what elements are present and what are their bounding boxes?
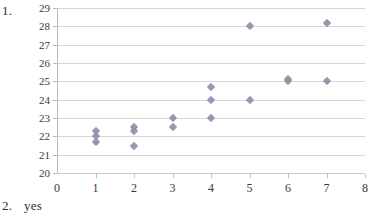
data-point bbox=[322, 77, 330, 85]
x-axis-label: 7 bbox=[317, 182, 337, 194]
question-2-number: 2. bbox=[2, 198, 12, 214]
y-axis-tick bbox=[53, 100, 57, 101]
x-axis-tick bbox=[211, 174, 212, 178]
x-axis-tick bbox=[365, 174, 366, 178]
scatter-chart: 20212223242526272829 012345678 bbox=[0, 0, 371, 195]
y-axis-label: 29 bbox=[24, 3, 50, 14]
data-point bbox=[245, 22, 253, 30]
x-axis-tick bbox=[96, 174, 97, 178]
y-axis-tick bbox=[53, 173, 57, 174]
y-axis-label: 23 bbox=[24, 113, 50, 124]
x-axis-label: 6 bbox=[278, 182, 298, 194]
y-axis-label: 26 bbox=[24, 58, 50, 69]
data-point bbox=[130, 141, 138, 149]
y-axis-tick bbox=[53, 136, 57, 137]
x-axis-label: 0 bbox=[47, 182, 67, 194]
y-axis-tick bbox=[53, 45, 57, 46]
data-point bbox=[245, 95, 253, 103]
y-axis-tick bbox=[53, 8, 57, 9]
gridline-horizontal bbox=[57, 63, 365, 64]
y-axis-label: 21 bbox=[24, 150, 50, 161]
y-axis-label: 27 bbox=[24, 40, 50, 51]
y-axis-tick bbox=[53, 118, 57, 119]
x-axis-label: 8 bbox=[355, 182, 371, 194]
data-point bbox=[207, 95, 215, 103]
x-axis-tick bbox=[288, 174, 289, 178]
data-point bbox=[168, 123, 176, 131]
y-axis-label: 28 bbox=[24, 21, 50, 32]
y-axis-label: 25 bbox=[24, 76, 50, 87]
gridline-horizontal bbox=[57, 8, 365, 9]
x-axis-label: 3 bbox=[163, 182, 183, 194]
gridline-horizontal bbox=[57, 155, 365, 156]
y-axis-tick bbox=[53, 155, 57, 156]
y-axis-tick bbox=[53, 26, 57, 27]
y-axis-label: 24 bbox=[24, 95, 50, 106]
x-axis-tick bbox=[134, 174, 135, 178]
x-axis-label: 2 bbox=[124, 182, 144, 194]
y-axis-label: 22 bbox=[24, 131, 50, 142]
x-axis-label: 1 bbox=[86, 182, 106, 194]
data-point bbox=[207, 114, 215, 122]
data-point bbox=[91, 138, 99, 146]
x-axis-label: 4 bbox=[201, 182, 221, 194]
x-axis-label: 5 bbox=[240, 182, 260, 194]
y-axis-tick-labels: 20212223242526272829 bbox=[22, 0, 50, 195]
gridline-horizontal bbox=[57, 26, 365, 27]
x-axis-tick bbox=[250, 174, 251, 178]
data-point bbox=[168, 114, 176, 122]
x-axis-tick bbox=[173, 174, 174, 178]
question-2-answer: yes bbox=[24, 198, 42, 214]
x-axis-tick bbox=[327, 174, 328, 178]
gridline-horizontal bbox=[57, 136, 365, 137]
y-axis-tick bbox=[53, 63, 57, 64]
y-axis-tick bbox=[53, 81, 57, 82]
data-point bbox=[207, 83, 215, 91]
y-axis-label: 20 bbox=[24, 168, 50, 179]
gridline-horizontal bbox=[57, 45, 365, 46]
plot-area bbox=[57, 8, 365, 173]
